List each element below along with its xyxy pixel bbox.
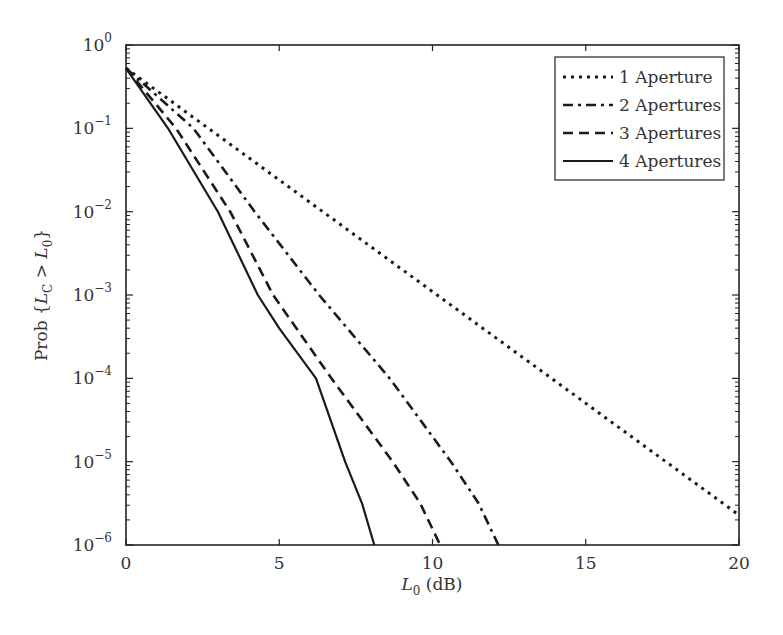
x-tick-label: 10 — [422, 553, 444, 573]
y-tick-label: 10−6 — [73, 531, 112, 555]
x-tick-label: 20 — [728, 553, 750, 573]
y-tick-label: 100 — [83, 31, 112, 55]
x-tick-label: 5 — [274, 553, 285, 573]
y-tick-label: 10−1 — [73, 114, 112, 138]
legend-label: 2 Apertures — [619, 95, 721, 115]
series-3-apertures — [126, 68, 440, 545]
chart: 05101520 10010−110−210−310−410−510−6 1 A… — [0, 0, 783, 635]
y-axis-title: Prob {LC > L0} — [31, 229, 55, 361]
legend-label: 3 Apertures — [619, 123, 721, 143]
legend-label: 4 Apertures — [619, 151, 721, 171]
series-2-apertures — [126, 68, 498, 545]
x-tick-label: 0 — [121, 553, 132, 573]
y-tick-label: 10−2 — [73, 198, 112, 222]
legend: 1 Aperture2 Apertures3 Apertures4 Apertu… — [555, 57, 724, 180]
y-tick-label: 10−5 — [73, 448, 112, 472]
x-axis-title: L0 (dB) — [401, 574, 463, 598]
y-tick-label: 10−3 — [73, 281, 112, 305]
legend-label: 1 Aperture — [619, 67, 713, 87]
y-tick-label: 10−4 — [73, 364, 113, 388]
x-tick-label: 15 — [575, 553, 597, 573]
series-4-apertures — [126, 68, 374, 545]
